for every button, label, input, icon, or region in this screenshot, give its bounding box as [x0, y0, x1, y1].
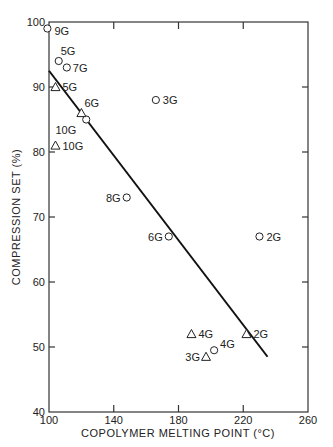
- circle-marker: [165, 233, 172, 240]
- point-label: 3G: [185, 351, 200, 363]
- circle-marker: [152, 96, 159, 103]
- y-tick-label: 90: [33, 81, 45, 93]
- scatter-chart: 100140180220260405060708090100 9G5G7G10G…: [0, 0, 333, 447]
- point-label: 4G: [220, 338, 235, 350]
- circle-marker: [211, 347, 218, 354]
- triangle-marker: [202, 352, 211, 360]
- point-label: 2G: [253, 328, 268, 340]
- y-tick-label: 40: [33, 406, 45, 418]
- circle-marker: [256, 233, 263, 240]
- y-tick-label: 50: [33, 341, 45, 353]
- point-label: 10G: [55, 124, 76, 136]
- y-tick-label: 60: [33, 276, 45, 288]
- point-label: 5G: [62, 81, 77, 93]
- y-tick-label: 70: [33, 211, 45, 223]
- plot-frame: [49, 22, 308, 412]
- circle-marker: [123, 194, 130, 201]
- circle-marker: [63, 64, 70, 71]
- point-label: 9G: [54, 25, 69, 37]
- x-tick-label: 140: [105, 414, 123, 426]
- y-tick-label: 80: [33, 146, 45, 158]
- point-label: 4G: [198, 328, 213, 340]
- x-tick-label: 260: [299, 414, 317, 426]
- circle-marker: [44, 25, 51, 32]
- triangle-marker: [187, 330, 196, 338]
- point-label: 10G: [62, 140, 83, 152]
- y-axis-label: COMPRESSION SET (%): [10, 149, 22, 285]
- point-label: 5G: [61, 45, 76, 57]
- triangle-marker: [51, 141, 60, 149]
- x-axis-label: COPOLYMER MELTING POINT (°C): [81, 427, 275, 439]
- plot-axes: [49, 22, 308, 412]
- axis-ticks: 100140180220260405060708090100: [27, 16, 318, 426]
- y-tick-label: 100: [27, 16, 45, 28]
- point-label: 8G: [106, 192, 121, 204]
- point-label: 2G: [266, 231, 281, 243]
- data-points: 9G5G7G10G3G8G6G2G4G5G6G10G4G2G3G: [44, 25, 281, 363]
- point-label: 7G: [73, 62, 88, 74]
- circle-marker: [55, 57, 62, 64]
- point-label: 3G: [163, 94, 178, 106]
- x-tick-label: 180: [169, 414, 187, 426]
- point-label: 6G: [84, 97, 99, 109]
- point-label: 6G: [148, 231, 163, 243]
- x-tick-label: 220: [234, 414, 252, 426]
